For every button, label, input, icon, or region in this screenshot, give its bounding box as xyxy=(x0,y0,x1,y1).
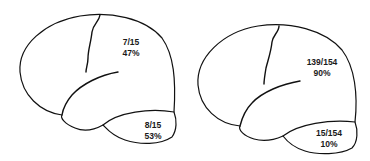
left-central-sulcus xyxy=(86,15,100,72)
left-upper-percent: 47% xyxy=(114,48,148,59)
right-temporal-percent: 10% xyxy=(309,139,349,150)
right-upper-fraction: 139/154 xyxy=(300,57,344,68)
left-temporal-region-label: 8/15 53% xyxy=(136,120,170,142)
right-temporal-region-label: 15/154 10% xyxy=(309,128,349,150)
left-temporal-fraction: 8/15 xyxy=(136,120,170,131)
left-sylvian-fissure xyxy=(62,72,118,115)
left-temporal-percent: 53% xyxy=(136,131,170,142)
right-central-sulcus xyxy=(264,26,279,84)
right-upper-percent: 90% xyxy=(300,68,344,79)
right-temporal-fraction: 15/154 xyxy=(309,128,349,139)
left-upper-fraction: 7/15 xyxy=(114,37,148,48)
right-upper-region-label: 139/154 90% xyxy=(300,57,344,79)
left-upper-region-label: 7/15 47% xyxy=(114,37,148,59)
right-sylvian-fissure xyxy=(240,81,300,126)
